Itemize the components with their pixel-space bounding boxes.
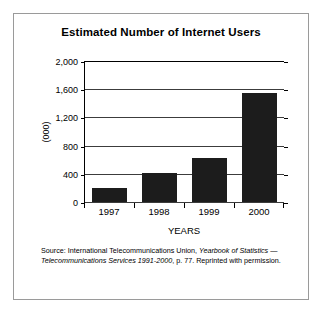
ytick-label-800: 800 — [63, 142, 78, 152]
ytick-mark-right-1200 — [284, 118, 288, 119]
plot-area: 0 400 800 1,200 — [84, 61, 284, 203]
ytick-label-1200: 1,200 — [55, 113, 78, 123]
ytick-mark-right-1600 — [284, 90, 288, 91]
xlabel-1999: 1999 — [184, 206, 234, 217]
ytick-mark-right-0 — [284, 203, 288, 204]
x-axis-title: YEARS — [84, 225, 284, 236]
bar-slot-1997 — [85, 61, 135, 202]
y-axis-title: (000) — [38, 61, 52, 203]
y-axis-title-text: (000) — [40, 121, 50, 142]
source-note: Source: International Telecommunications… — [41, 246, 286, 267]
bar-slot-1999 — [185, 61, 235, 202]
ytick-label-400: 400 — [63, 170, 78, 180]
bar-slot-2000 — [234, 61, 284, 202]
figure-border: Estimated Number of Internet Users (000)… — [13, 13, 309, 300]
ytick-label-1600: 1,600 — [55, 85, 78, 95]
bar-1999 — [192, 158, 227, 202]
plot-wrapper: (000) 0 400 800 — [14, 14, 310, 301]
ytick-mark-right-400 — [284, 175, 288, 176]
ytick-label-0: 0 — [73, 198, 78, 208]
xlabel-1997: 1997 — [84, 206, 134, 217]
bar-1998 — [142, 173, 177, 202]
x-axis-labels: 1997 1998 1999 2000 — [84, 206, 284, 217]
bar-1997 — [92, 188, 127, 202]
source-note-prefix: Source: International Telecommunications… — [41, 246, 199, 255]
ytick-mark-right-800 — [284, 147, 288, 148]
ytick-mark-right-2000 — [284, 62, 288, 63]
xlabel-1998: 1998 — [134, 206, 184, 217]
source-note-suffix: , p. 77. Reprinted with permission. — [172, 256, 281, 265]
chart-figure: Estimated Number of Internet Users (000)… — [0, 0, 323, 318]
ytick-label-2000: 2,000 — [55, 57, 78, 67]
bar-slot-1998 — [135, 61, 185, 202]
bar-series — [85, 61, 284, 202]
bar-2000 — [242, 93, 277, 202]
xlabel-2000: 2000 — [234, 206, 284, 217]
